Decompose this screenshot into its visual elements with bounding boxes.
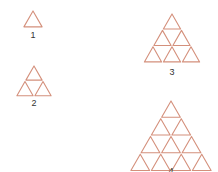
small-triangle	[162, 136, 181, 152]
small-triangle	[163, 47, 180, 62]
figure-2-triangles	[17, 66, 51, 96]
small-triangle	[192, 154, 211, 170]
figure-3-label: 3	[162, 67, 182, 77]
small-triangle	[172, 119, 191, 135]
small-triangle	[17, 81, 33, 95]
figure-1-label: 1	[23, 30, 43, 40]
figure-4-triangles	[131, 101, 211, 171]
small-triangle	[182, 47, 199, 62]
triangle-figures	[0, 0, 218, 172]
small-triangle	[154, 30, 171, 45]
figure-4-label: 4	[161, 166, 181, 172]
small-triangle	[131, 154, 150, 170]
small-triangle	[182, 136, 201, 152]
small-triangle	[144, 47, 161, 62]
small-triangle	[141, 136, 160, 152]
small-triangle	[26, 66, 42, 80]
small-triangle	[35, 81, 51, 95]
small-triangle	[162, 101, 181, 117]
small-triangle	[151, 119, 170, 135]
diagram-canvas: 1 2 3 4	[0, 0, 218, 172]
figure-1-triangles	[24, 11, 42, 27]
small-triangle	[173, 30, 190, 45]
figure-3-triangles	[144, 14, 199, 62]
small-triangle	[24, 11, 42, 27]
small-triangle	[163, 14, 180, 29]
figure-2-label: 2	[24, 98, 44, 108]
